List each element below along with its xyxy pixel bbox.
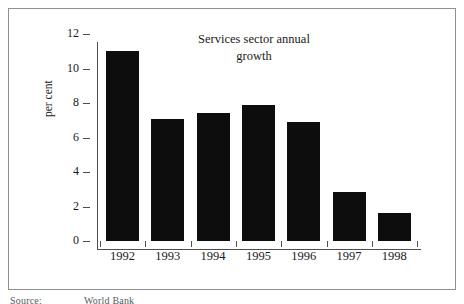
source-caption: Source:World Bank <box>10 295 134 304</box>
y-axis-tick-label: 10 <box>37 61 79 76</box>
x-axis-tick <box>372 241 373 247</box>
x-axis-tick <box>145 241 146 247</box>
x-axis-tick-label: 1993 <box>145 249 191 264</box>
figure-frame: Services sector annual growth per cent 0… <box>8 8 456 290</box>
x-axis-tick <box>100 241 101 247</box>
bar-1994 <box>197 113 230 241</box>
source-value: World Bank <box>84 295 134 304</box>
y-axis-tick-label: 6 <box>37 130 79 145</box>
y-axis-line <box>97 42 98 250</box>
y-axis-tick <box>83 172 90 173</box>
y-axis-tick <box>83 34 90 35</box>
x-axis-tick-label: 1994 <box>190 249 236 264</box>
bar-1992 <box>106 51 139 241</box>
y-axis-tick-label: 8 <box>37 95 79 110</box>
x-axis-tick <box>281 241 282 247</box>
y-axis-tick <box>83 69 90 70</box>
chart-title-line-1: Services sector annual <box>159 31 349 48</box>
x-axis-tick-label: 1992 <box>100 249 146 264</box>
x-axis-tick-label: 1997 <box>326 249 372 264</box>
bar-1996 <box>287 122 320 241</box>
y-axis-tick-label: 2 <box>37 199 79 214</box>
x-axis-tick <box>417 241 418 247</box>
bar-1998 <box>378 213 411 241</box>
y-axis-tick <box>83 241 90 242</box>
y-axis-tick-label: 0 <box>37 233 79 248</box>
y-axis-tick <box>83 207 90 208</box>
chart-title-line-2: growth <box>159 48 349 65</box>
x-axis-tick-label: 1998 <box>371 249 417 264</box>
x-axis-tick <box>191 241 192 247</box>
y-axis-tick-label: 12 <box>37 26 79 41</box>
y-axis-tick <box>83 103 90 104</box>
bar-1997 <box>333 192 366 241</box>
source-label: Source: <box>10 295 42 304</box>
x-axis-tick <box>327 241 328 247</box>
bar-1993 <box>151 119 184 241</box>
bar-1995 <box>242 105 275 241</box>
x-axis-tick-label: 1996 <box>281 249 327 264</box>
y-axis-tick-label: 4 <box>37 164 79 179</box>
page-title: Services sector annual growth <box>159 31 349 65</box>
x-axis-tick <box>236 241 237 247</box>
x-axis-tick-label: 1995 <box>235 249 281 264</box>
y-axis-tick <box>83 138 90 139</box>
